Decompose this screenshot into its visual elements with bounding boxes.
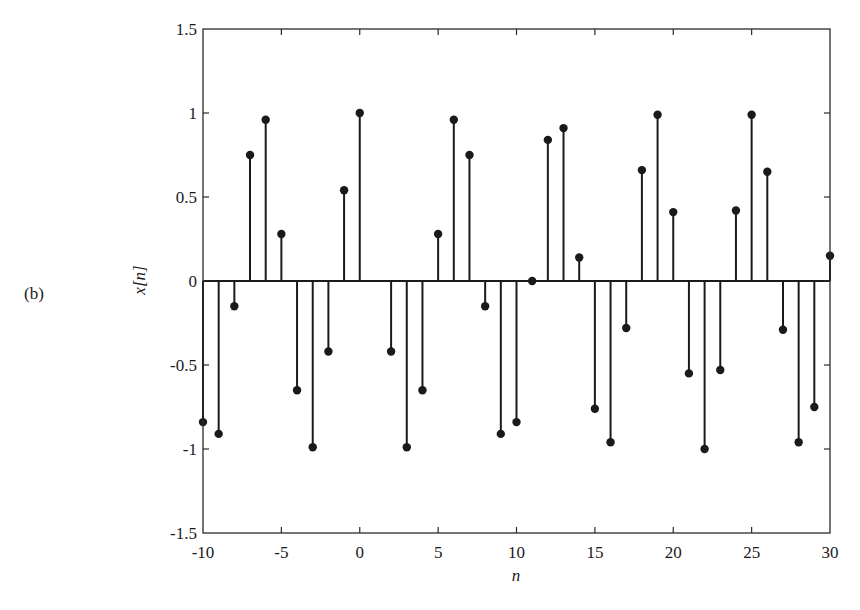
x-tick-label: 25	[743, 543, 760, 562]
y-tick-label: 1	[189, 104, 198, 123]
stem-marker	[403, 443, 411, 451]
plot-area: -10-5051015202530-1.5-1-0.500.511.5	[0, 0, 860, 610]
stem-marker	[512, 418, 520, 426]
stem-marker	[356, 109, 364, 117]
stem-marker	[528, 277, 536, 285]
x-tick-label: -10	[192, 543, 215, 562]
stem-marker	[324, 347, 332, 355]
x-tick-label: -5	[274, 543, 288, 562]
stem-marker	[732, 206, 740, 214]
stem-marker	[559, 124, 567, 132]
stem-marker	[214, 430, 222, 438]
stem-marker	[638, 166, 646, 174]
stem-marker	[481, 302, 489, 310]
stem-marker	[716, 366, 724, 374]
stem-marker	[591, 404, 599, 412]
stem-marker	[747, 110, 755, 118]
stem-marker	[763, 168, 771, 176]
y-tick-label: -1.5	[170, 524, 197, 543]
stem-marker	[387, 347, 395, 355]
stem-marker	[497, 430, 505, 438]
y-tick-label: -1	[183, 440, 197, 459]
stem-marker	[810, 403, 818, 411]
stem-marker	[450, 116, 458, 124]
stem-marker	[293, 386, 301, 394]
stem-marker	[653, 110, 661, 118]
stem-marker	[262, 116, 270, 124]
axis-ticks: -10-5051015202530-1.5-1-0.500.511.5	[170, 20, 838, 562]
stem-marker	[544, 136, 552, 144]
stem-marker	[309, 443, 317, 451]
x-tick-label: 20	[665, 543, 682, 562]
stem-marker	[794, 438, 802, 446]
stem-marker	[669, 208, 677, 216]
x-tick-label: 5	[434, 543, 443, 562]
stem-marker	[606, 438, 614, 446]
y-tick-label: 1.5	[176, 20, 197, 39]
stem-marker	[418, 386, 426, 394]
stem-marker	[779, 326, 787, 334]
y-tick-label: -0.5	[170, 356, 197, 375]
x-tick-label: 30	[822, 543, 839, 562]
stem-marker	[246, 151, 254, 159]
stem-series	[199, 109, 834, 453]
stem-marker	[434, 230, 442, 238]
x-tick-label: 0	[356, 543, 365, 562]
stem-marker	[465, 151, 473, 159]
stem-marker	[685, 369, 693, 377]
x-tick-label: 15	[586, 543, 603, 562]
stem-marker	[575, 253, 583, 261]
stem-marker	[700, 445, 708, 453]
stem-plot-figure: (b) x[n] n -10-5051015202530-1.5-1-0.500…	[0, 0, 860, 610]
x-tick-label: 10	[508, 543, 525, 562]
stem-marker	[277, 230, 285, 238]
stem-marker	[340, 186, 348, 194]
y-tick-label: 0	[189, 272, 198, 291]
stem-marker	[622, 324, 630, 332]
y-tick-label: 0.5	[176, 188, 197, 207]
stem-marker	[230, 302, 238, 310]
